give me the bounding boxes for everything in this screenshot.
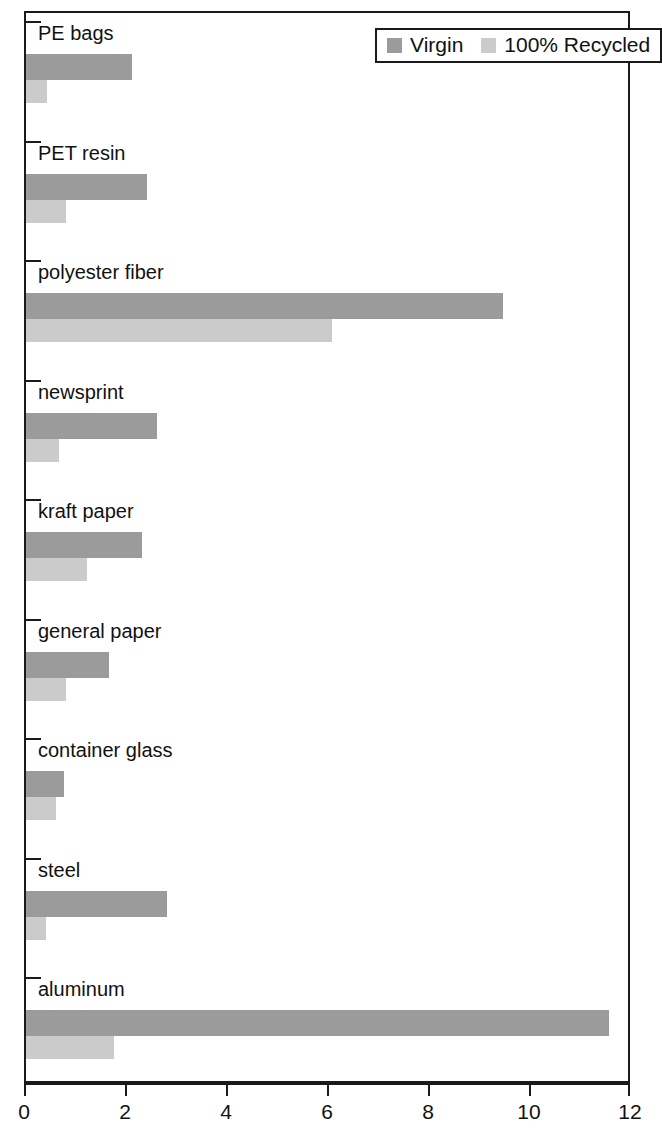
bar-virgin: [26, 532, 142, 558]
bar-virgin: [26, 413, 157, 439]
bar-recycled: [26, 678, 66, 701]
x-axis: 024681012: [24, 1083, 630, 1085]
x-axis-tick: [628, 1083, 630, 1096]
x-axis-tick: [428, 1083, 430, 1096]
x-axis-tick-label: 6: [307, 1100, 347, 1124]
bar-recycled: [26, 1036, 114, 1059]
x-axis-tick-label: 12: [610, 1100, 650, 1124]
bar-virgin: [26, 1010, 609, 1036]
legend-label-virgin: Virgin: [410, 34, 463, 56]
recycled-swatch-icon: [481, 38, 496, 53]
category-label: container glass: [38, 738, 173, 762]
plot-frame: PE bagsPET resinpolyester fibernewsprint…: [24, 11, 630, 1083]
bar-virgin: [26, 652, 109, 678]
virgin-swatch-icon: [387, 38, 402, 53]
bar-virgin: [26, 771, 64, 797]
bar-recycled: [26, 80, 47, 103]
x-axis-tick: [125, 1083, 127, 1096]
legend-entry-recycled: 100% Recycled: [481, 34, 650, 56]
x-axis-tick-label: 2: [105, 1100, 145, 1124]
x-axis-tick-label: 4: [206, 1100, 246, 1124]
plot-area: PE bagsPET resinpolyester fibernewsprint…: [26, 13, 628, 1081]
x-axis-tick: [327, 1083, 329, 1096]
x-axis-tick-label: 10: [509, 1100, 549, 1124]
legend-label-recycled: 100% Recycled: [504, 34, 650, 56]
category-label: polyester fiber: [38, 260, 164, 284]
bar-virgin: [26, 174, 147, 200]
bar-recycled: [26, 200, 66, 223]
x-axis-tick: [24, 1083, 26, 1096]
category-label: PET resin: [38, 141, 125, 165]
category-label: kraft paper: [38, 499, 134, 523]
bar-recycled: [26, 917, 46, 940]
category-label: PE bags: [38, 21, 114, 45]
x-axis-tick: [529, 1083, 531, 1096]
x-axis-tick-label: 8: [408, 1100, 448, 1124]
category-label: general paper: [38, 619, 161, 643]
bar-recycled: [26, 439, 59, 462]
bar-recycled: [26, 558, 87, 581]
x-axis-tick-label: 0: [4, 1100, 44, 1124]
bar-recycled: [26, 797, 56, 820]
x-axis-tick: [226, 1083, 228, 1096]
bar-recycled: [26, 319, 332, 342]
chart-legend: Virgin 100% Recycled: [375, 28, 662, 63]
category-label: steel: [38, 858, 80, 882]
bar-virgin: [26, 293, 503, 319]
category-label: aluminum: [38, 977, 125, 1001]
bar-virgin: [26, 54, 132, 80]
category-label: newsprint: [38, 380, 124, 404]
legend-entry-virgin: Virgin: [387, 34, 463, 56]
bar-virgin: [26, 891, 167, 917]
